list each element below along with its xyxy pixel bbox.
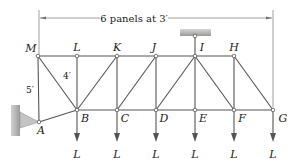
load-label: L (151, 148, 159, 161)
node-label-f: F (237, 112, 246, 125)
load-label: L (72, 148, 80, 161)
wall-support (11, 105, 39, 136)
node-label-e: E (198, 112, 207, 125)
load-label: L (112, 148, 120, 161)
arrowhead-left-icon (40, 17, 46, 20)
ceiling-support (180, 29, 211, 56)
node-label-h: H (228, 41, 239, 54)
panel-height-label: 4′ (63, 71, 71, 81)
pin-icon (193, 34, 197, 38)
load-arrow-icon (192, 133, 198, 142)
load-arrow-icon (114, 133, 120, 142)
node-label-d: D (159, 112, 169, 125)
load-label: L (268, 148, 276, 161)
support-offset-label: 5′ (26, 85, 34, 95)
load-arrow-icon (231, 133, 237, 142)
load-label: L (190, 148, 198, 161)
node-label-j: J (150, 41, 157, 54)
node-label-c: C (121, 112, 130, 125)
node-label-l: L (72, 41, 80, 54)
truss-diagram: 6 panels at 3′ (0, 0, 299, 166)
load-labels: L L L L L L (72, 148, 276, 161)
arrowhead-right-icon (266, 17, 272, 20)
load-arrow-icon (74, 133, 80, 142)
load-arrow-icon (153, 133, 159, 142)
node-label-i: I (199, 41, 205, 54)
node-label-m: M (24, 42, 37, 55)
node-label-b: B (80, 112, 89, 125)
load-label: L (229, 148, 237, 161)
dimension-label: 6 panels at 3′ (100, 13, 168, 24)
node-label-g: G (279, 112, 288, 125)
wall-block (11, 105, 20, 136)
load-arrow-icon (270, 133, 276, 142)
node-label-k: K (112, 41, 122, 54)
node-label-a: A (36, 124, 45, 137)
